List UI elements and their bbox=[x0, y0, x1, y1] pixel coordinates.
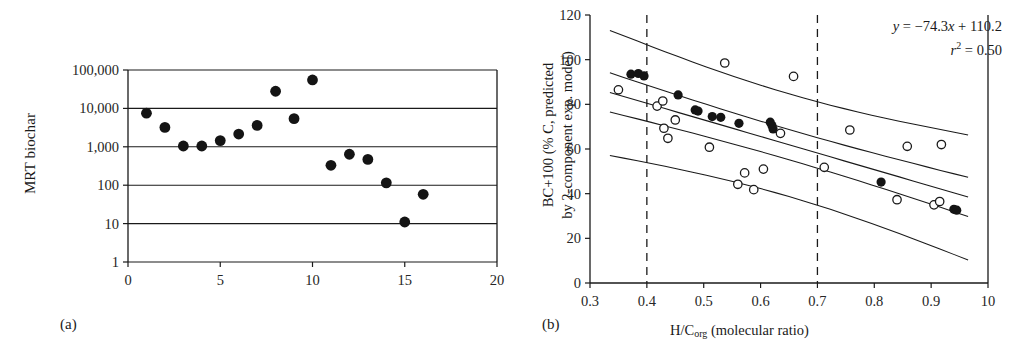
x-tick-label: 15 bbox=[398, 272, 413, 288]
y-tick-label: 1 bbox=[112, 254, 119, 270]
data-point-open bbox=[935, 197, 943, 205]
data-point-filled bbox=[160, 122, 171, 133]
panel-a-plot: 1101001,00010,000100,00005101520 bbox=[0, 0, 520, 358]
data-point-open bbox=[671, 116, 679, 124]
data-point-filled bbox=[639, 71, 648, 80]
x-tick-label: 0.3 bbox=[581, 293, 599, 309]
data-point-open bbox=[664, 134, 672, 142]
data-point-open bbox=[846, 126, 854, 134]
data-point-open bbox=[614, 86, 622, 94]
x-tick-label: 0.6 bbox=[752, 293, 770, 309]
data-point-open bbox=[660, 124, 668, 132]
data-point-open bbox=[789, 72, 797, 80]
panel-b-data-points bbox=[614, 59, 961, 215]
panel-a: MRT biochar 1101001,00010,000100,0000510… bbox=[0, 0, 520, 358]
data-point-filled bbox=[252, 120, 263, 131]
data-point-filled bbox=[952, 206, 961, 215]
x-tick-label: 10 bbox=[305, 272, 320, 288]
y-tick-label: 10,000 bbox=[79, 100, 119, 116]
band-curve-lower-prediction bbox=[610, 155, 968, 260]
panel-b-x-ticks: 0.30.40.50.60.70.80.910 bbox=[581, 283, 995, 309]
band-curve-fit bbox=[610, 92, 968, 197]
data-point-filled bbox=[381, 177, 392, 188]
data-point-filled bbox=[289, 113, 300, 124]
data-point-open bbox=[820, 163, 828, 171]
data-point-filled bbox=[734, 119, 743, 128]
regression-equation: y = −74.3x + 110.2 bbox=[893, 16, 1002, 36]
x-tick-label: 0.8 bbox=[865, 293, 883, 309]
panel-a-tag: (a) bbox=[60, 316, 77, 333]
data-point-filled bbox=[877, 177, 886, 186]
data-point-open bbox=[734, 180, 742, 188]
panel-b: BC+100 (% C, predicted by 2-component ex… bbox=[520, 0, 1028, 358]
panel-b-reference-lines bbox=[647, 15, 818, 283]
x-tick-label: 0 bbox=[124, 272, 131, 288]
panel-a-data-points bbox=[141, 75, 429, 228]
data-point-filled bbox=[674, 90, 683, 99]
panel-a-gridlines bbox=[128, 70, 497, 262]
x-tick-label: 0.7 bbox=[808, 293, 826, 309]
data-point-open bbox=[776, 129, 784, 137]
panel-b-annotation: y = −74.3x + 110.2 r2 = 0.50 bbox=[893, 16, 1002, 60]
panel-b-y-ticks: 020406080100120 bbox=[559, 7, 590, 291]
x-tick-label: 0.5 bbox=[695, 293, 713, 309]
y-tick-label: 40 bbox=[567, 186, 582, 202]
data-point-filled bbox=[307, 75, 318, 86]
y-tick-label: 20 bbox=[567, 230, 582, 246]
panel-b-band-curves bbox=[610, 30, 968, 260]
data-point-filled bbox=[716, 113, 725, 122]
x-tick-label: 5 bbox=[217, 272, 224, 288]
data-point-open bbox=[740, 169, 748, 177]
y-tick-label: 0 bbox=[574, 275, 581, 291]
data-point-open bbox=[937, 140, 945, 148]
panel-b-tag: (b) bbox=[542, 316, 560, 333]
data-point-filled bbox=[399, 217, 410, 228]
panel-a-x-ticks: 05101520 bbox=[124, 262, 504, 288]
data-point-filled bbox=[708, 112, 717, 121]
data-point-filled bbox=[215, 135, 226, 146]
y-tick-label: 120 bbox=[559, 7, 581, 23]
y-tick-label: 100 bbox=[559, 52, 581, 68]
y-tick-label: 60 bbox=[567, 141, 582, 157]
r-squared-label: r2 = 0.50 bbox=[893, 36, 1002, 60]
data-point-filled bbox=[270, 86, 281, 97]
data-point-filled bbox=[196, 141, 207, 152]
panel-b-x-axis-label: H/Corg (molecular ratio) bbox=[670, 322, 809, 339]
data-point-filled bbox=[693, 106, 702, 115]
data-point-filled bbox=[344, 149, 355, 160]
data-point-open bbox=[659, 97, 667, 105]
data-point-filled bbox=[362, 154, 373, 165]
data-point-open bbox=[759, 165, 767, 173]
data-point-filled bbox=[326, 160, 337, 171]
x-tick-label: 0.9 bbox=[922, 293, 940, 309]
data-point-open bbox=[893, 195, 901, 203]
y-tick-label: 80 bbox=[567, 96, 582, 112]
figure-container: MRT biochar 1101001,00010,000100,0000510… bbox=[0, 0, 1028, 358]
panel-a-y-ticks: 1101001,00010,000100,000 bbox=[72, 62, 128, 270]
y-tick-label: 10 bbox=[105, 216, 120, 232]
x-tick-label: 20 bbox=[490, 272, 505, 288]
data-point-filled bbox=[178, 141, 189, 152]
y-tick-label: 100 bbox=[97, 177, 119, 193]
x-tick-label: 10 bbox=[981, 293, 996, 309]
data-point-open bbox=[721, 59, 729, 67]
y-tick-label: 100,000 bbox=[72, 62, 119, 78]
panel-a-axes bbox=[128, 70, 497, 262]
data-point-open bbox=[903, 142, 911, 150]
data-point-open bbox=[705, 143, 713, 151]
data-point-filled bbox=[141, 108, 152, 119]
x-tick-label: 0.4 bbox=[638, 293, 657, 309]
y-tick-label: 1,000 bbox=[86, 139, 119, 155]
data-point-filled bbox=[418, 189, 429, 200]
data-point-open bbox=[750, 185, 758, 193]
data-point-filled bbox=[233, 129, 244, 140]
